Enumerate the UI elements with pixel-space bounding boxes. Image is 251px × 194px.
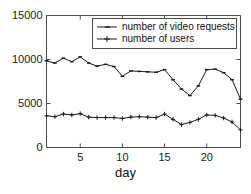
data-series-1: [45, 57, 243, 99]
legend-item-video-requests: number of video requests: [96, 21, 233, 33]
legend-label-users: number of users: [122, 34, 194, 44]
series-line: [47, 114, 241, 130]
x-axis-title: day: [0, 166, 251, 180]
legend-marker-dash-icon: [96, 22, 118, 32]
y-tick-label: 15000: [12, 10, 43, 21]
x-tick-label: 5: [65, 152, 95, 163]
legend-label-video-requests: number of video requests: [122, 22, 235, 32]
y-tick-label: 5000: [18, 98, 42, 109]
data-series-2: [45, 111, 243, 132]
x-tick-label: 15: [150, 152, 180, 163]
y-tick-label: 10000: [12, 54, 43, 65]
chart-container: 050001000015000 5101520 day number of vi…: [0, 0, 251, 194]
series-line: [47, 57, 241, 99]
x-tick-label: 10: [107, 152, 137, 163]
chart-legend: number of video requests number of users: [92, 18, 237, 49]
x-tick-label: 20: [192, 152, 222, 163]
y-tick-label: 0: [36, 142, 42, 153]
legend-marker-plus-icon: [96, 34, 118, 44]
legend-item-users: number of users: [96, 33, 233, 45]
